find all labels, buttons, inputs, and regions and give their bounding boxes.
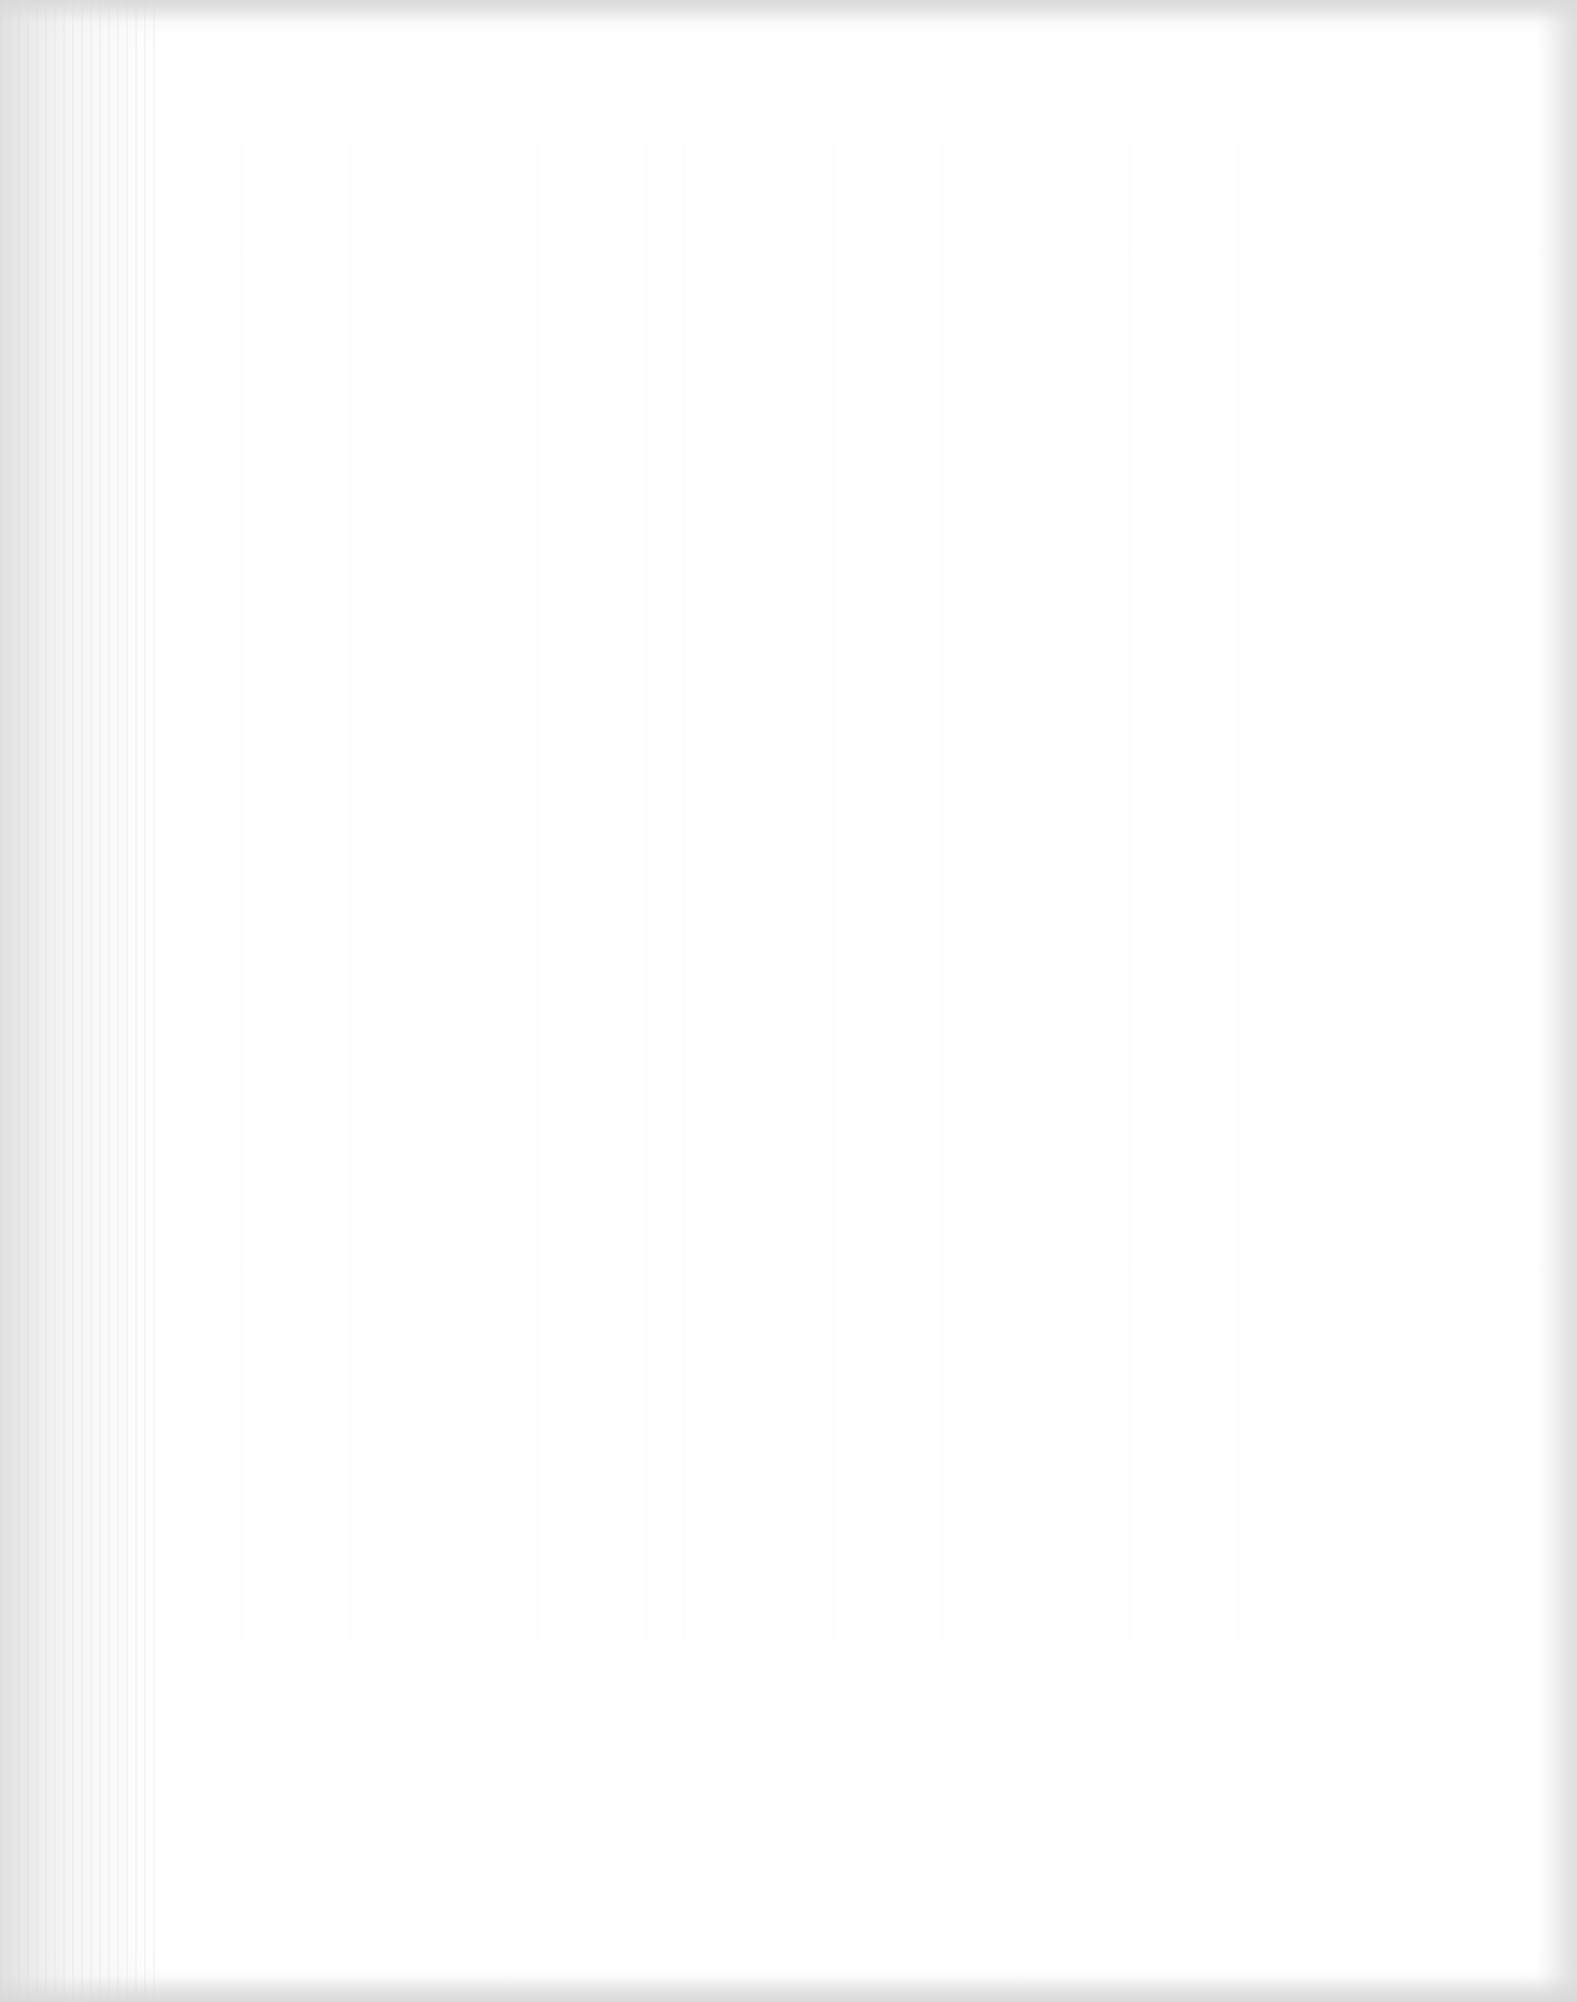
top-scan-edge [0,0,1577,22]
blank-scanned-page [0,0,1577,2002]
page-body-text [240,140,1340,1840]
binding-edge-shadow [0,0,160,2002]
right-scan-edge [1537,0,1577,2002]
bottom-scan-edge [0,1976,1577,2002]
